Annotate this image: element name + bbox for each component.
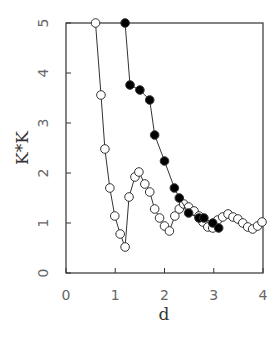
data-point bbox=[101, 145, 110, 154]
y-tick-label: 0 bbox=[35, 269, 51, 278]
data-point bbox=[141, 180, 150, 189]
data-point bbox=[200, 214, 209, 223]
data-point bbox=[126, 81, 135, 90]
data-point bbox=[150, 131, 159, 140]
y-tick-label: 5 bbox=[35, 19, 51, 28]
data-point bbox=[165, 227, 174, 236]
y-tick-label: 3 bbox=[35, 119, 51, 128]
data-point bbox=[116, 230, 125, 239]
chart: 01234 012345 d K*K bbox=[0, 0, 279, 341]
series-open-circles bbox=[91, 19, 266, 252]
y-tick-label: 1 bbox=[35, 219, 51, 228]
data-point bbox=[136, 86, 145, 95]
data-point bbox=[150, 205, 159, 214]
data-point bbox=[97, 91, 106, 100]
data-point bbox=[121, 243, 130, 252]
y-axis-label: K*K bbox=[12, 131, 32, 165]
x-tick-label: 2 bbox=[160, 287, 169, 303]
data-point bbox=[106, 184, 115, 193]
data-point bbox=[91, 19, 100, 28]
data-point bbox=[145, 96, 154, 105]
series-filled-circles bbox=[121, 19, 223, 233]
data-point bbox=[160, 157, 169, 166]
data-point bbox=[121, 19, 130, 28]
data-point bbox=[125, 193, 134, 202]
data-point bbox=[184, 209, 193, 218]
data-point bbox=[175, 194, 184, 203]
x-tick-label: 1 bbox=[111, 287, 120, 303]
x-axis-label: d bbox=[159, 304, 170, 324]
data-point bbox=[155, 214, 164, 223]
x-tick-label: 3 bbox=[209, 287, 218, 303]
x-tick-label: 0 bbox=[62, 287, 71, 303]
x-tick-label: 4 bbox=[259, 287, 268, 303]
data-point bbox=[110, 212, 119, 221]
data-point bbox=[170, 184, 179, 193]
data-point bbox=[135, 168, 144, 177]
plot-frame bbox=[66, 23, 263, 273]
series-layer bbox=[91, 19, 266, 252]
data-point bbox=[214, 224, 223, 233]
data-point bbox=[145, 188, 154, 197]
data-point bbox=[258, 218, 267, 227]
y-tick-label: 2 bbox=[35, 169, 51, 178]
y-tick-label: 4 bbox=[35, 68, 51, 77]
